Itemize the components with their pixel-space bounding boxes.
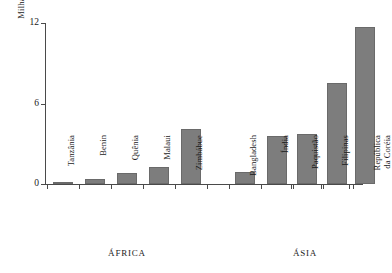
x-axis-tick-mark — [111, 185, 112, 189]
category-label: Bangladesh — [249, 135, 259, 193]
y-axis-label: Milhas por 1.000 hectares — [14, 0, 28, 42]
y-axis-tick-label: 0 — [34, 178, 39, 189]
category-label: Repúblicada Coréia — [373, 135, 392, 193]
y-axis-line — [45, 23, 46, 185]
x-axis-tick-mark — [47, 185, 48, 189]
y-axis-tick-mark — [41, 104, 45, 105]
category-label: Índia — [281, 135, 291, 193]
x-axis-tick-mark — [229, 185, 230, 189]
category-label: Filipinas — [341, 135, 351, 193]
category-label: Tanzânia — [67, 135, 77, 193]
category-label: Paquistão — [311, 135, 321, 193]
group-label: ÁFRICA — [77, 248, 177, 258]
x-axis-tick-mark — [291, 185, 292, 189]
x-axis-tick-mark — [323, 185, 324, 189]
x-axis-tick-mark — [353, 185, 354, 189]
category-label-line: da Coréia — [383, 135, 392, 193]
category-label: Malaui — [163, 135, 173, 193]
category-label: Zimbábue — [195, 135, 205, 193]
x-axis-tick-mark — [79, 185, 80, 189]
y-axis-tick-mark — [41, 184, 45, 185]
x-axis-tick-mark — [293, 185, 294, 189]
x-axis-tick-mark — [143, 185, 144, 189]
x-axis-tick-mark — [321, 185, 322, 189]
y-axis-tick-label: 6 — [34, 98, 39, 109]
x-axis-tick-mark — [207, 185, 208, 189]
x-axis-tick-mark — [261, 185, 262, 189]
x-axis-tick-mark — [175, 185, 176, 189]
y-axis-tick-mark — [41, 23, 45, 24]
category-label: Quênia — [131, 135, 141, 193]
group-label: ÁSIA — [255, 248, 355, 258]
category-label: Benin — [99, 135, 109, 193]
y-axis-tick-label: 12 — [30, 17, 40, 28]
